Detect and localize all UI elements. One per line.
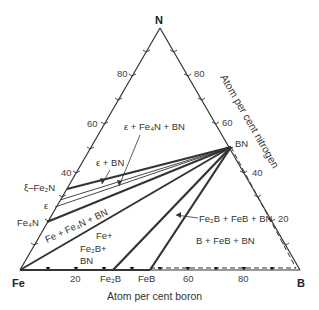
tie-line-fe4n: [47, 147, 231, 222]
compound-label-epsilon: ε: [44, 200, 49, 211]
region-fe-fe2b-bn-line1: Fe+: [96, 230, 113, 241]
region-b-feb-bn: B + FeB + BN: [196, 235, 255, 246]
axis-label-boron: Atom per cent boron: [107, 290, 202, 302]
vertex-label-fe: Fe: [12, 277, 25, 289]
compound-label-fe4n: Fe₄N: [17, 217, 39, 228]
region-eps-fe4n-bn: ε + Fe₄N + BN: [124, 121, 185, 132]
vertex-label-n: N: [155, 14, 163, 26]
right-tick-40: 40: [252, 167, 263, 178]
bottom-tick-60: 60: [183, 273, 194, 284]
region-fe-fe2b-bn-line3: BN: [80, 255, 93, 266]
left-tick-80: 80: [117, 68, 128, 79]
tie-line-fe: [20, 147, 231, 270]
right-tick-80: 80: [194, 68, 205, 79]
compound-label-fe2b: Fe₂B: [100, 273, 121, 284]
compound-label-feb: FeB: [138, 273, 155, 284]
compound-label-xi-fe2n: ξ–Fe₂N: [24, 182, 55, 193]
region-fe-fe2b-bn-line2: Fe₂B+: [80, 243, 107, 254]
compound-label-bn: BN: [235, 138, 248, 149]
right-tick-60: 60: [222, 117, 233, 128]
region-eps-bn: ε + BN: [96, 157, 124, 168]
left-tick-60: 60: [87, 118, 98, 129]
bottom-tick-20: 20: [70, 273, 81, 284]
bottom-tick-80: 80: [238, 273, 249, 284]
tie-lines: [20, 147, 231, 270]
left-tick-40: 40: [61, 167, 72, 178]
ternary-phase-diagram: N Fe B 80 60 40 80 60 40 20 20 60 80 BN …: [0, 0, 319, 310]
region-fe2b-feb-bn: Fe₂B + FeB + BN: [199, 213, 273, 224]
right-tick-20: 20: [278, 213, 289, 224]
vertex-label-b: B: [297, 277, 305, 289]
